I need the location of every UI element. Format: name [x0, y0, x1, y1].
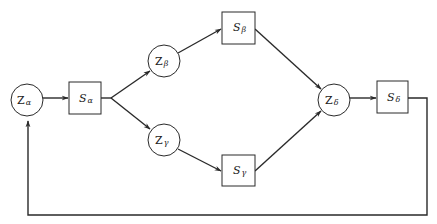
node-s-beta: Sβ: [222, 12, 255, 44]
node-label-sub: α: [26, 98, 32, 107]
edge-salpha-zgamma: [111, 98, 150, 129]
node-label-main: S: [387, 91, 395, 104]
node-label-sub: α: [88, 96, 94, 105]
node-label-sub: β: [241, 25, 247, 34]
node-z-alpha: Zα: [11, 84, 43, 116]
node-label-sub: δ: [334, 98, 339, 107]
node-z-delta: Zδ: [318, 84, 350, 116]
flow-diagram: Zα Sα Zβ Sβ Zγ Sγ Zδ Sδ: [0, 0, 437, 224]
node-label-main: S: [233, 164, 241, 177]
edge-salpha-zbeta: [111, 71, 150, 98]
node-label-main: S: [79, 92, 87, 105]
node-z-beta: Zβ: [148, 45, 180, 77]
node-s-gamma: Sγ: [222, 155, 255, 186]
edge-sgamma-zdelta: [255, 111, 321, 171]
node-label-sub: δ: [396, 95, 401, 104]
edge-sbeta-zdelta: [255, 29, 321, 89]
node-label-sub: β: [163, 59, 169, 68]
node-label-main: Z: [155, 134, 163, 147]
node-s-alpha: Sα: [69, 82, 101, 114]
node-label-sub: γ: [242, 168, 247, 177]
node-label-sub: γ: [164, 138, 169, 147]
node-label-main: Z: [325, 94, 333, 107]
node-s-delta: Sδ: [377, 81, 408, 113]
edge-zgamma-sgamma: [178, 149, 221, 171]
node-label-main: Z: [17, 94, 25, 107]
node-z-gamma: Zγ: [148, 124, 180, 156]
node-label-main: S: [233, 21, 241, 34]
node-label-main: Z: [155, 55, 163, 68]
edge-zbeta-sbeta: [178, 29, 221, 53]
